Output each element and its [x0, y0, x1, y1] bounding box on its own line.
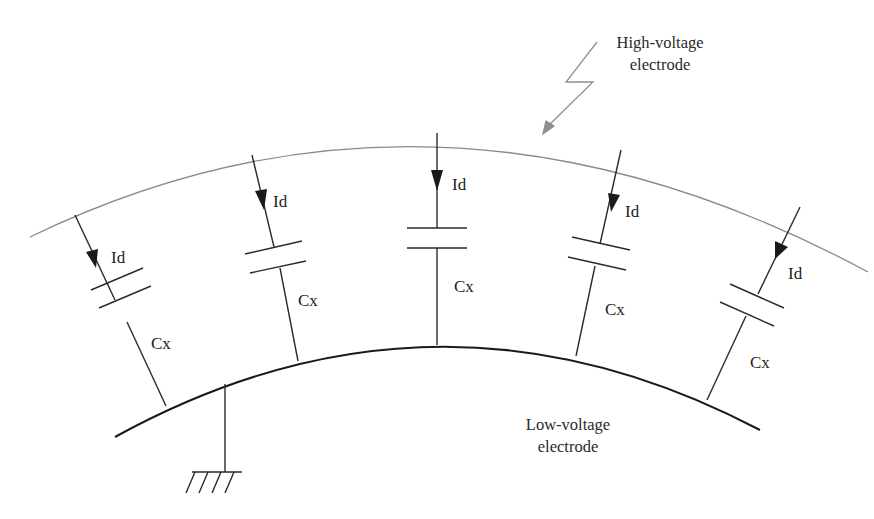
- high-voltage-label-line1: High-voltage: [616, 33, 703, 52]
- high-voltage-electrode: [30, 147, 868, 272]
- capacitor-plate-bottom: [99, 286, 151, 308]
- arrow-down-icon: [255, 189, 267, 210]
- current-label-5: Id: [788, 264, 803, 283]
- capacitor-label-5: Cx: [750, 353, 770, 372]
- high-voltage-label-line2: electrode: [630, 55, 690, 74]
- branch-2: [245, 155, 306, 361]
- arrow-down-icon: [431, 170, 443, 191]
- capacitor-label-2: Cx: [298, 291, 318, 310]
- low-voltage-label-line2: electrode: [538, 437, 598, 456]
- arrow-down-icon: [775, 241, 788, 259]
- capacitor-plate-top: [91, 268, 143, 290]
- arrow-down-icon: [608, 193, 620, 212]
- lightning-icon: [543, 42, 597, 134]
- ground-icon: [186, 384, 242, 493]
- branch-3: [407, 133, 467, 345]
- capacitor-label-4: Cx: [605, 300, 625, 319]
- low-voltage-electrode: [115, 347, 760, 437]
- branch-4: [568, 150, 630, 356]
- electrode-diagram: Id Id Id Id Id Cx Cx Cx Cx Cx High-volta…: [0, 0, 874, 519]
- current-label-4: Id: [625, 202, 640, 221]
- low-voltage-label-line1: Low-voltage: [526, 415, 610, 434]
- capacitor-label-1: Cx: [151, 334, 171, 353]
- current-label-3: Id: [452, 175, 467, 194]
- capacitor-label-3: Cx: [454, 277, 474, 296]
- arrow-down-icon: [86, 249, 98, 268]
- current-label-2: Id: [273, 192, 288, 211]
- current-label-1: Id: [111, 248, 126, 267]
- branch-1: [75, 215, 166, 406]
